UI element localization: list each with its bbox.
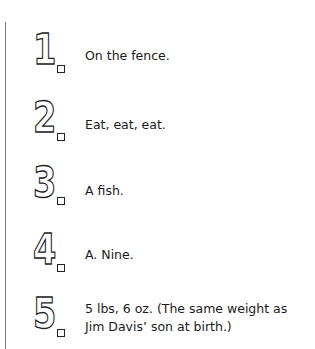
answer-text: Eat, eat, eat. — [85, 116, 166, 133]
answer-number: 5 — [33, 296, 52, 332]
answer-number: 4 — [33, 232, 52, 268]
number-period-square — [57, 133, 65, 141]
answer-text: A. Nine. — [85, 246, 134, 263]
number-period-square — [57, 197, 65, 205]
answer-text-line-1: 5 lbs, 6 oz. (The same weight as — [85, 300, 287, 317]
answer-number: 2 — [33, 100, 52, 136]
answer-text-line-2: Jim Davis’ son at birth.) — [85, 318, 232, 335]
margin-rule — [5, 22, 6, 349]
number-period-square — [57, 65, 65, 73]
answer-text: On the fence. — [85, 47, 170, 64]
answer-number: 1 — [33, 32, 52, 68]
number-period-square — [57, 329, 65, 337]
number-period-square — [57, 264, 65, 272]
answer-text: A fish. — [85, 182, 124, 199]
answer-number: 3 — [33, 165, 52, 201]
